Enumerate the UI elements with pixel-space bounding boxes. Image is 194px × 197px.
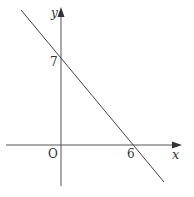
data-line	[21, 10, 164, 182]
graph-canvas: y 7 O 6 x	[0, 0, 194, 197]
x-axis-label: x	[172, 147, 180, 162]
x-intercept-label: 6	[127, 147, 135, 161]
origin-label: O	[48, 147, 58, 161]
y-axis-arrow-icon	[58, 7, 65, 17]
coordinate-graph: y 7 O 6 x	[0, 0, 194, 197]
y-intercept-label: 7	[50, 55, 58, 69]
y-axis-label: y	[50, 6, 58, 20]
